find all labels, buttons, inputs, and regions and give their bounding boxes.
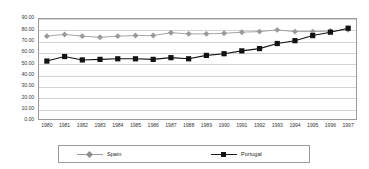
data-point-marker [257, 29, 263, 35]
data-point-marker [168, 55, 173, 60]
data-point-marker [186, 31, 192, 37]
x-tick-label: 1987 [165, 123, 176, 128]
data-point-marker [62, 31, 68, 37]
x-tick-label: 1993 [272, 123, 283, 128]
x-axis: 1980198119821983198419851986198719881989… [38, 123, 357, 133]
x-tick-label: 1990 [219, 123, 230, 128]
x-tick-label: 1980 [41, 123, 52, 128]
y-axis: 90.0080.0070.0060.0050.0040.0030.0020.00… [0, 0, 36, 169]
x-tick-label: 1981 [59, 123, 70, 128]
data-point-marker [97, 57, 102, 62]
x-tick-label: 1994 [289, 123, 300, 128]
data-point-marker [80, 57, 85, 62]
x-tick-label: 1982 [77, 123, 88, 128]
data-point-marker [346, 26, 351, 31]
data-point-marker [79, 33, 85, 39]
legend-item-spain: Spain [77, 150, 121, 159]
series-line [47, 28, 348, 61]
data-point-marker [115, 56, 120, 61]
data-point-marker [328, 30, 333, 35]
legend-label-spain: Spain [107, 152, 121, 158]
y-tick-label: 30.00 [22, 83, 34, 88]
data-point-marker [115, 33, 121, 39]
data-point-marker [221, 30, 227, 36]
legend-item-portugal: Portugal [211, 150, 262, 159]
data-point-marker [133, 56, 138, 61]
data-point-marker [44, 58, 49, 63]
data-point-marker [310, 33, 315, 38]
data-point-marker [133, 33, 139, 39]
data-point-marker [203, 31, 209, 37]
x-tick-label: 1992 [254, 123, 265, 128]
y-tick-label: 60.00 [22, 49, 34, 54]
y-tick-label: 50.00 [22, 61, 34, 66]
x-tick-label: 1997 [343, 123, 354, 128]
data-point-marker [257, 46, 262, 51]
data-point-marker [275, 41, 280, 46]
legend-label-portugal: Portugal [241, 152, 262, 158]
y-tick-label: 70.00 [22, 38, 34, 43]
y-tick-label: 20.00 [22, 95, 34, 100]
x-tick-label: 1985 [130, 123, 141, 128]
data-point-marker [221, 51, 226, 56]
data-point-marker [292, 38, 297, 43]
x-tick-label: 1991 [236, 123, 247, 128]
y-tick-label: 0.00 [24, 117, 34, 122]
data-point-marker [62, 54, 67, 59]
y-tick-label: 10.00 [22, 106, 34, 111]
data-point-marker [186, 56, 191, 61]
y-tick-label: 40.00 [22, 72, 34, 77]
line-chart: 90.0080.0070.0060.0050.0040.0030.0020.00… [0, 0, 369, 169]
data-point-marker [97, 34, 103, 40]
y-tick-label: 90.00 [22, 15, 34, 20]
x-tick-label: 1989 [201, 123, 212, 128]
data-point-marker [292, 29, 298, 35]
data-point-marker [150, 33, 156, 39]
data-point-marker [239, 48, 244, 53]
y-tick-label: 80.00 [22, 27, 34, 32]
data-point-marker [274, 27, 280, 33]
x-tick-label: 1983 [94, 123, 105, 128]
series-layer [38, 18, 357, 120]
data-point-marker [204, 53, 209, 58]
legend-swatch-diamond-icon [77, 150, 103, 159]
series-line [47, 30, 348, 37]
x-tick-label: 1996 [325, 123, 336, 128]
x-tick-label: 1995 [307, 123, 318, 128]
chart-legend: Spain Portugal [58, 145, 310, 163]
data-point-marker [151, 57, 156, 62]
x-tick-label: 1984 [112, 123, 123, 128]
legend-swatch-square-icon [211, 150, 237, 159]
x-tick-label: 1986 [148, 123, 159, 128]
data-point-marker [239, 29, 245, 35]
data-point-marker [44, 33, 50, 39]
data-point-marker [168, 30, 174, 36]
x-tick-label: 1988 [183, 123, 194, 128]
